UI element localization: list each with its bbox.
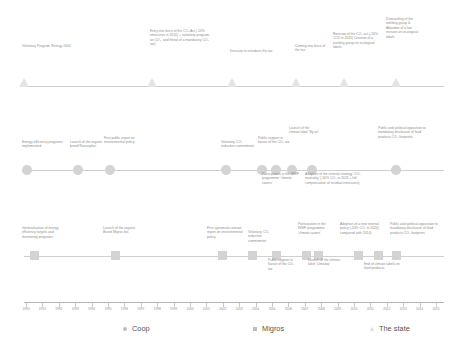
event-label-generalisation-energy-targets: Generalisation of energy efficiency targ… — [22, 226, 70, 239]
event-label-wwf-climate-savers-migros: Participation in the WWF programme ‘clim… — [298, 222, 332, 235]
year-label-2008: 2008 — [313, 307, 329, 311]
event-label-public-political-opposition-migros: Public and political opposition to manda… — [390, 222, 444, 235]
year-label-2007: 2007 — [297, 307, 313, 311]
legend-migros[interactable]: Migros — [253, 324, 284, 333]
year-label-2012: 2012 — [379, 307, 395, 311]
event-label-dismantling-working-group: Dismantling of the working group & Aband… — [386, 17, 419, 39]
event-label-decision-to-introduce-the-tax: Decision to introduce the tax — [230, 49, 282, 53]
marker-voluntary-program-energy-2000[interactable] — [19, 78, 29, 87]
legend: CoopMigrosThe state — [0, 320, 453, 340]
year-label-1996: 1996 — [116, 307, 132, 311]
legend-label: The state — [379, 324, 410, 333]
year-axis-line — [24, 302, 444, 303]
year-label-1991: 1991 — [34, 307, 50, 311]
legend-state[interactable]: The state — [370, 324, 410, 333]
legend-label: Coop — [132, 324, 150, 333]
triangle-marker-icon — [370, 327, 374, 331]
marker-energy-efficiency-programs[interactable] — [22, 165, 32, 175]
marker-public-political-opposition[interactable] — [391, 165, 401, 175]
marker-co2-act-entry-into-force[interactable] — [147, 78, 157, 87]
event-label-coming-into-force-of-the-tax: Coming into force of the tax — [295, 44, 329, 53]
event-label-co2-act-revision: Revision of the CO₂ act (-20% CO2 in 202… — [333, 32, 383, 50]
marker-launch-migros-bio[interactable] — [111, 251, 120, 260]
event-label-public-support-co2-tax-migros: Public support in favour of the CO₂ tax — [268, 258, 296, 271]
marker-co2-act-revision[interactable] — [339, 78, 349, 87]
legend-label: Migros — [262, 324, 284, 333]
event-label-co2-act-entry-into-force: Entry into force of the CO₂ Act (-10% em… — [150, 29, 212, 47]
marker-end-of-climate-labels[interactable] — [374, 251, 383, 260]
marker-generalisation-energy-targets[interactable] — [30, 251, 39, 260]
year-label-1993: 1993 — [67, 307, 83, 311]
year-label-1999: 1999 — [166, 307, 182, 311]
year-label-1990: 1990 — [18, 307, 34, 311]
marker-new-internal-policy-migros[interactable] — [354, 251, 363, 260]
marker-voluntary-co2-commitment-migros[interactable] — [248, 251, 257, 260]
year-label-2006: 2006 — [280, 307, 296, 311]
event-label-first-systematic-annual-report: First systematic annual report on enviro… — [207, 226, 245, 239]
event-label-voluntary-co2-commitment-migros: Voluntary CO₂ reduction commitment — [248, 230, 281, 243]
marker-launch-naturaplan[interactable] — [73, 165, 83, 175]
event-label-voluntary-co2-commitment: Voluntary CO₂ reduction commitment — [221, 140, 257, 149]
year-label-2015: 2015 — [428, 307, 444, 311]
event-label-internal-strategy-co2-neutrality: Adoption of the internal strategy ‘CO₂ n… — [305, 172, 369, 185]
marker-first-systematic-annual-report[interactable] — [218, 251, 227, 260]
event-label-public-support-co2-tax: Public support in favour of the CO₂ tax — [258, 136, 290, 145]
event-label-launch-migros-bio: Launch of the organic Brand Migros bio — [103, 226, 141, 235]
event-label-first-public-report: First public report on environmental pol… — [104, 136, 140, 145]
year-label-2011: 2011 — [362, 307, 378, 311]
circle-marker-icon — [123, 327, 127, 331]
year-label-2001: 2001 — [198, 307, 214, 311]
event-label-wwf-climate-savers-coop: Participation in the WWF programme ‘clim… — [262, 172, 300, 185]
year-label-2014: 2014 — [412, 307, 428, 311]
year-label-2004: 2004 — [248, 307, 264, 311]
legend-coop[interactable]: Coop — [123, 324, 150, 333]
year-label-2013: 2013 — [395, 307, 411, 311]
marker-voluntary-co2-commitment[interactable] — [221, 165, 231, 175]
marker-coming-into-force-of-the-tax[interactable] — [291, 78, 301, 87]
marker-dismantling-working-group[interactable] — [391, 78, 401, 87]
year-label-2005: 2005 — [264, 307, 280, 311]
year-label-1998: 1998 — [149, 307, 165, 311]
event-label-public-political-opposition: Public and political opposition to manda… — [378, 126, 434, 139]
year-label-2009: 2009 — [330, 307, 346, 311]
square-marker-icon — [253, 327, 257, 331]
year-label-2010: 2010 — [346, 307, 362, 311]
year-label-1992: 1992 — [51, 307, 67, 311]
event-label-end-of-climate-labels: End of climate labels on food products — [364, 262, 402, 271]
marker-decision-to-introduce-the-tax[interactable] — [227, 78, 237, 87]
year-label-2003: 2003 — [231, 307, 247, 311]
event-label-launch-climate-label-by-air: Launch of the climate label ‘By air’ — [289, 126, 319, 135]
year-label-1995: 1995 — [100, 307, 116, 311]
year-label-1997: 1997 — [133, 307, 149, 311]
event-label-voluntary-program-energy-2000: Voluntary Program ‘Energy 2000’ — [22, 44, 80, 48]
event-label-new-internal-policy-migros: Adoption of a new internal policy (-20% … — [340, 222, 386, 235]
event-label-energy-efficiency-programs: Energy efficiency programs implemented — [22, 140, 64, 149]
marker-first-public-report[interactable] — [105, 165, 115, 175]
marker-public-political-opposition-migros[interactable] — [392, 251, 401, 260]
timeline-diagram: Voluntary Program ‘Energy 2000’Entry int… — [0, 0, 453, 341]
event-label-launch-climate-label-climatop: Launch of the climate label ‘climatop’ — [308, 258, 348, 267]
year-label-2000: 2000 — [182, 307, 198, 311]
coop-axis-line — [24, 170, 444, 171]
year-label-1994: 1994 — [84, 307, 100, 311]
year-label-2002: 2002 — [215, 307, 231, 311]
